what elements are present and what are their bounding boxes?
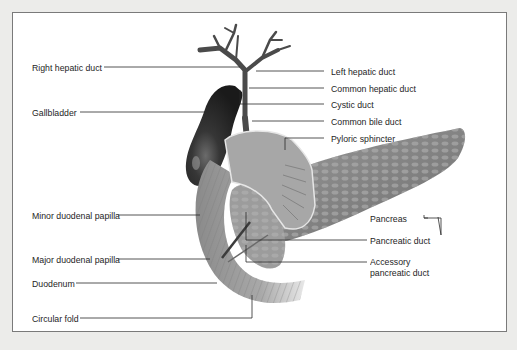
label-common-hepatic-duct: Common hepatic duct: [331, 83, 416, 94]
label-right-hepatic-duct: Right hepatic duct: [32, 62, 102, 73]
label-pancreas: Pancreas: [370, 213, 407, 224]
label-gallbladder: Gallbladder: [32, 107, 77, 118]
label-major-duodenal-papilla: Major duodenal papilla: [32, 254, 120, 265]
label-minor-duodenal-papilla: Minor duodenal papilla: [32, 210, 120, 221]
label-pancreatic-duct: Pancreatic duct: [370, 235, 430, 246]
label-pyloric-sphincter: Pyloric sphincter: [331, 133, 395, 144]
label-circular-fold: Circular fold: [32, 313, 79, 324]
label-left-hepatic-duct: Left hepatic duct: [331, 66, 395, 77]
label-duodenum: Duodenum: [32, 278, 75, 289]
label-accessory-pancreatic-duct-line2: pancreatic duct: [370, 267, 429, 278]
label-accessory-pancreatic-duct-line1: Accessory: [370, 256, 410, 267]
label-common-bile-duct: Common bile duct: [331, 116, 401, 127]
anatomy-illustration: [0, 0, 517, 350]
label-cystic-duct: Cystic duct: [331, 99, 374, 110]
